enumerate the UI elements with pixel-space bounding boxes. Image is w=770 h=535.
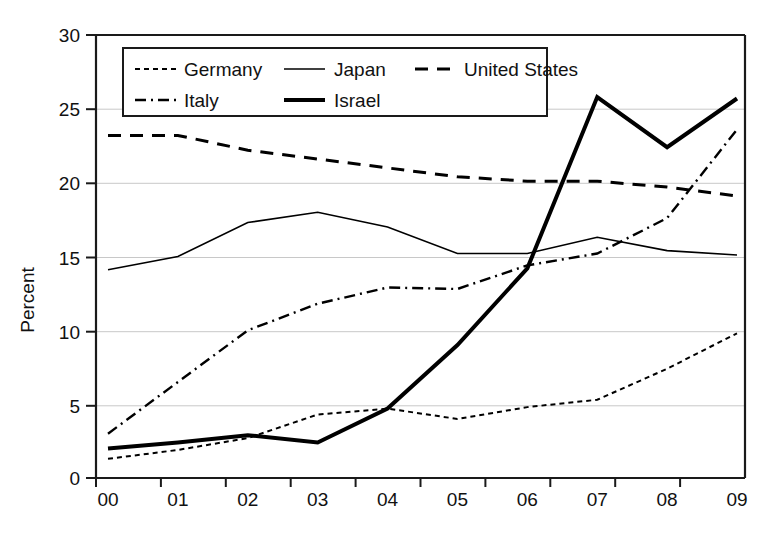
figure-container: 30 25 20 15 10 5 0 Percent 0001020304050… bbox=[0, 0, 770, 535]
legend-label-germany: Germany bbox=[184, 59, 263, 80]
x-tick-label-02: 02 bbox=[237, 489, 258, 510]
legend-label-united-states: United States bbox=[464, 59, 578, 80]
y-tick-label-10: 10 bbox=[59, 322, 80, 343]
x-tick-labels: 00010203040506070809 bbox=[97, 489, 747, 510]
y-tick-label-30: 30 bbox=[59, 25, 80, 46]
y-tick-labels: 30 25 20 15 10 5 0 bbox=[59, 25, 80, 489]
y-tick-label-5: 5 bbox=[69, 396, 80, 417]
legend[interactable]: Germany Japan United States Italy Israel bbox=[123, 48, 578, 116]
x-tick-label-01: 01 bbox=[167, 489, 188, 510]
y-tick-label-15: 15 bbox=[59, 248, 80, 269]
x-tick-label-00: 00 bbox=[97, 489, 118, 510]
y-tick-label-25: 25 bbox=[59, 99, 80, 120]
x-tick-label-06: 06 bbox=[517, 489, 538, 510]
x-tick-label-05: 05 bbox=[447, 489, 468, 510]
legend-label-israel: Israel bbox=[334, 90, 380, 111]
y-tick-label-0: 0 bbox=[69, 468, 80, 489]
x-tick-label-09: 09 bbox=[726, 489, 747, 510]
x-tick-marks bbox=[96, 478, 680, 487]
legend-label-italy: Italy bbox=[184, 90, 219, 111]
x-tick-label-03: 03 bbox=[307, 489, 328, 510]
x-tick-label-04: 04 bbox=[377, 489, 399, 510]
x-tick-label-07: 07 bbox=[587, 489, 608, 510]
line-chart: 30 25 20 15 10 5 0 Percent 0001020304050… bbox=[0, 0, 770, 535]
x-tick-label-08: 08 bbox=[657, 489, 678, 510]
legend-label-japan: Japan bbox=[334, 59, 386, 80]
y-tick-label-20: 20 bbox=[59, 173, 80, 194]
y-axis-title: Percent bbox=[17, 267, 38, 333]
y-tick-marks bbox=[86, 35, 96, 478]
